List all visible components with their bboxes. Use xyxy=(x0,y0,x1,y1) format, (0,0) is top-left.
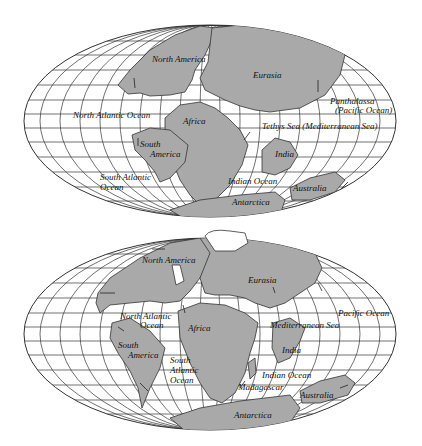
label-north-america: North America xyxy=(151,54,206,64)
label-india: India xyxy=(274,149,294,159)
label-eurasia: Eurasia xyxy=(252,70,282,80)
label-pacific-ocean: Pacific Ocean xyxy=(337,308,390,318)
label-south-atlantic-1: South Atlantic xyxy=(100,172,151,182)
label-pacific-ocean: (Pacific Ocean) xyxy=(335,105,392,115)
label-eurasia: Eurasia xyxy=(247,275,277,285)
label-north-atlantic-ocean: North Atlantic Ocean xyxy=(72,110,151,120)
label-india: India xyxy=(281,345,301,355)
label-antarctica: Antarctica xyxy=(231,197,270,207)
label-africa: Africa xyxy=(182,116,206,126)
map-early-pangaea: North America Eurasia North Atlantic Oce… xyxy=(0,0,422,223)
label-south-america-1: South xyxy=(118,340,139,350)
label-indian-ocean: Indian Ocean xyxy=(227,176,278,186)
label-madagascar: Madagascar xyxy=(237,382,284,392)
label-australia: Australia xyxy=(292,183,327,193)
label-mediterranean-sea: Mediterranean Sea xyxy=(269,320,340,330)
label-south-atlantic-1: South xyxy=(170,355,191,365)
label-south-atlantic-2: Atlantic xyxy=(169,365,199,375)
label-africa: Africa xyxy=(187,323,211,333)
label-north-america: North America xyxy=(141,255,196,265)
label-indian-ocean: Indian Ocean xyxy=(261,370,312,380)
label-antarctica: Antarctica xyxy=(233,410,272,420)
label-south-atlantic-2: Ocean xyxy=(100,182,124,192)
label-south-america-2: America xyxy=(127,350,159,360)
label-australia: Australia xyxy=(299,390,334,400)
label-north-atlantic-2: Ocean xyxy=(140,320,164,330)
label-tethys-sea: Tethys Sea (Mediterranean Sea) xyxy=(262,121,377,131)
label-south-america-2: America xyxy=(149,149,181,159)
label-south-atlantic-3: Ocean xyxy=(170,375,194,385)
map-later-continents: North America Eurasia North Atlantic Oce… xyxy=(0,223,422,446)
label-south-america-1: South xyxy=(140,139,161,149)
